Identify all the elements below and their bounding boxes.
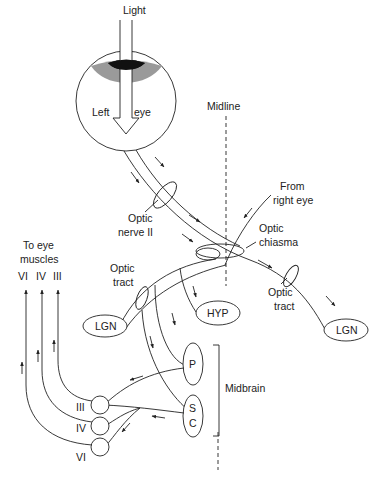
arrow-nerve-3 [189,215,200,222]
sc-label-s: S [189,402,196,414]
optic-nerve-label-2: nerve II [118,226,153,238]
to-eye-muscles-label-2: muscles [20,253,59,265]
arrow-to-sc [150,336,153,348]
midline-label: Midline [207,100,240,112]
nucleus-iv [91,417,109,435]
nucleus-vi [91,438,109,456]
right-optic-tract-label-2: tract [274,300,295,312]
arrow-sc-to-iii [152,416,165,418]
nerve-vi-top-label: VI [18,270,28,282]
left-optic-tract-label-2: tract [113,276,134,288]
light-label: Light [123,4,146,16]
nucleus-iii [91,396,109,414]
arrow-nerve-1 [155,157,164,167]
midbrain-label: Midbrain [225,382,265,394]
nerve-iii-top-label: III [53,270,62,282]
sc-to-iii [104,405,184,413]
branch-to-p [155,285,185,365]
hyp-label: HYP [207,307,229,319]
branch-to-sc [142,310,188,410]
arrow-right-tract-2 [326,296,335,306]
nerve-iv-top-label: IV [36,270,46,282]
p-label: P [189,358,196,370]
arrow-to-p [172,313,175,325]
right-optic-tract-label-1: Optic [268,286,293,298]
p-to-iii [104,368,184,405]
from-right-eye-label-1: From [280,180,305,192]
arrow-right-eye [244,208,252,218]
nucleus-vi-label: VI [76,451,86,463]
arrow-nerve-4 [182,234,193,242]
nucleus-iv-label: IV [76,422,86,434]
sc-to-iv [105,408,140,426]
hyp-branch [180,268,196,312]
left-lgn-label: LGN [95,320,117,332]
sc-to-vi [105,408,140,447]
midbrain-bracket [213,345,219,436]
left-eye: Left eye [76,20,176,151]
optic-nerve-label-1: Optic [128,212,153,224]
to-eye-muscles-label-1: To eye [23,239,54,251]
eye-label-left: Left [92,106,110,118]
visual-pathway-diagram: Light Left eye Midline Optic nerve II Op… [0,0,383,486]
arrow-hyp [193,286,196,297]
right-lgn-label: LGN [336,324,358,336]
nerve-iii [58,290,92,401]
nucleus-iii-label: III [76,401,85,413]
eye-label-eye: eye [134,106,151,118]
optic-chiasma-label-2: chiasma [259,236,298,248]
arrow-nerve-2 [131,172,139,183]
optic-chiasma-label-1: Optic [259,222,284,234]
from-right-eye-label-2: right eye [273,194,313,206]
sc-label-c: C [189,417,197,429]
left-optic-tract-label-1: Optic [110,262,135,274]
